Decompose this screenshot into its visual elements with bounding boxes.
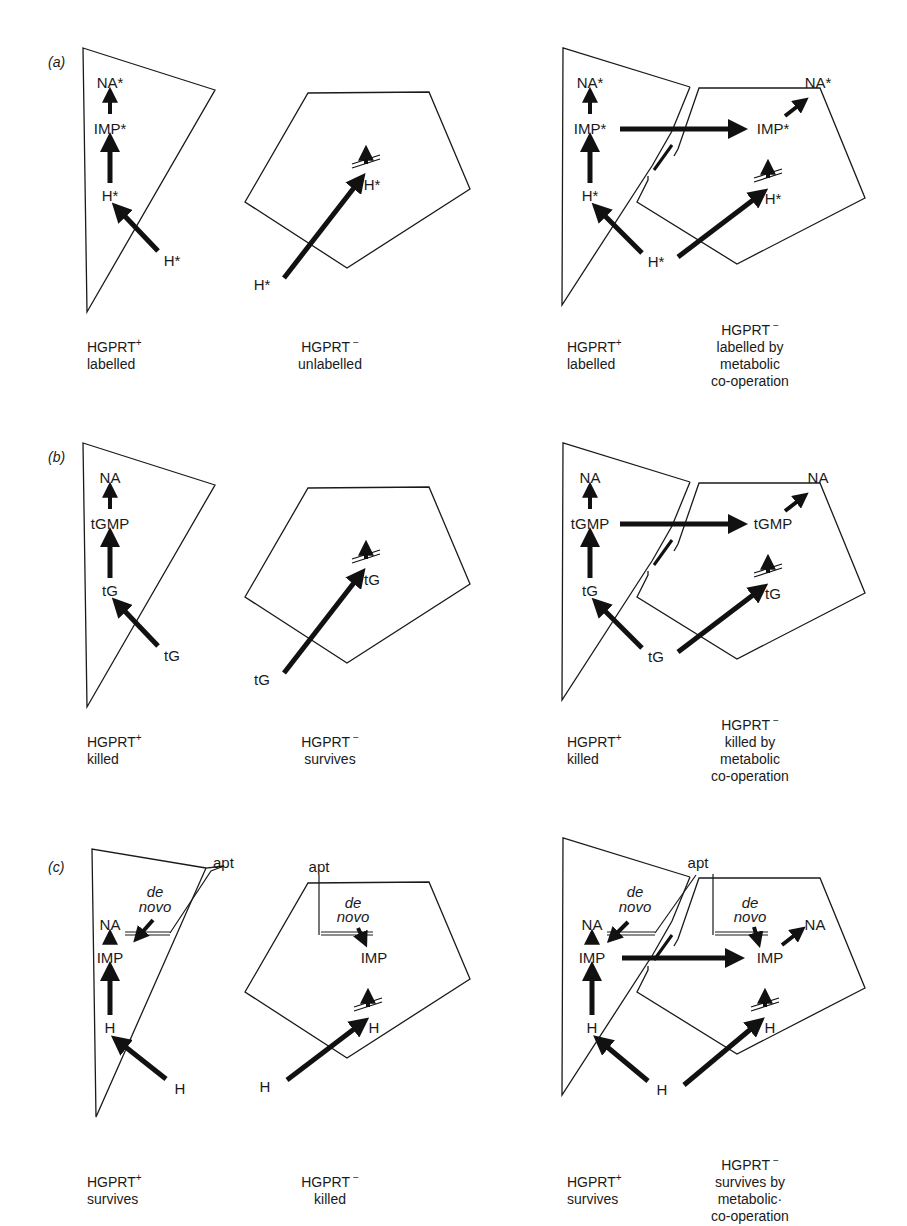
- panel-label: (c): [48, 859, 64, 875]
- caption-coop-positive: HGPRT+labelled: [567, 337, 622, 372]
- metabolite-base-inside: H*: [102, 187, 119, 204]
- cell-membrane-right: [637, 88, 865, 264]
- metabolite-nucleotide: IMP*: [574, 120, 607, 137]
- metabolite-nucleotide: IMP*: [757, 120, 790, 137]
- cooperating-cells: NA*IMP*H*IMP*NA*H*H*: [562, 48, 865, 305]
- caption-coop-negative: HGPRT−labelled bymetabolicco-operation: [711, 320, 789, 389]
- outcome-label: co-operation: [711, 373, 789, 389]
- metabolite-base-inside: H: [105, 1019, 116, 1036]
- cell-hgprt-positive: NAtGMPtGtG: [83, 443, 215, 707]
- genotype-label: HGPRT+: [567, 1172, 622, 1190]
- outcome-label: killed by: [725, 734, 776, 750]
- outcome-label: survives: [304, 751, 355, 767]
- outcome-label: metabolic: [720, 751, 780, 767]
- panel-c: (c)aptdenovoNAIMPHHaptdenovoIMPHHaptdeno…: [48, 838, 865, 1224]
- metabolite-na: NA*: [805, 74, 832, 91]
- genotype-label: HGPRT+: [87, 732, 142, 750]
- caption-coop-positive: HGPRT+killed: [567, 732, 622, 767]
- uptake-arrow: [678, 589, 761, 652]
- genotype-label: HGPRT−: [721, 1155, 779, 1173]
- caption-hgprt-negative: HGPRT−killed: [301, 1172, 359, 1207]
- de-novo-label: novo: [619, 898, 652, 915]
- apt-label: apt: [688, 854, 710, 871]
- cell-hgprt-negative: H*H*: [245, 92, 470, 293]
- genotype-label: HGPRT+: [567, 337, 622, 355]
- outcome-label: survives: [567, 1191, 618, 1207]
- uptake-arrow: [684, 1023, 758, 1085]
- panel-a: (a)NA*IMP*H*H*H*H*NA*IMP*H*IMP*NA*H*H*HG…: [48, 48, 865, 389]
- metabolite-nucleotide: IMP: [579, 949, 606, 966]
- metabolite-nucleotide: IMP*: [94, 120, 127, 137]
- outcome-label: unlabelled: [298, 356, 362, 372]
- metabolite-na: NA: [100, 469, 121, 486]
- metabolite-base-inside: H*: [765, 190, 782, 207]
- cell-membrane-left: [562, 838, 690, 1095]
- de-novo-arrow: [358, 928, 364, 941]
- uptake-arrow: [284, 180, 360, 278]
- metabolite-nucleotide: IMP: [97, 949, 124, 966]
- caption-coop-negative: HGPRT−killed bymetabolicco-operation: [711, 715, 789, 784]
- metabolite-base-outside: tG: [254, 671, 270, 688]
- metabolite-nucleotide: tGMP: [571, 515, 609, 532]
- metabolite-base-inside: tG: [102, 582, 118, 599]
- metabolite-base-outside: H*: [254, 276, 271, 293]
- genotype-label: HGPRT−: [721, 320, 779, 338]
- caption-hgprt-positive: HGPRT+killed: [87, 732, 142, 767]
- conversion-arrow: [785, 102, 803, 116]
- cell-hgprt-positive: aptdenovoNAIMPHH: [92, 849, 235, 1117]
- metabolite-base-inside: H: [587, 1019, 598, 1036]
- outcome-label: killed: [87, 751, 119, 767]
- outcome-label: survives: [87, 1191, 138, 1207]
- cell-hgprt-negative: tGtG: [245, 487, 470, 688]
- outcome-label: metabolic: [720, 356, 780, 372]
- genotype-label: HGPRT−: [301, 337, 359, 355]
- metabolite-base-inside: H*: [582, 187, 599, 204]
- caption-coop-negative: HGPRT−survives bymetabolic·co-operation: [711, 1155, 789, 1224]
- metabolite-base-inside: tG: [582, 582, 598, 599]
- apt-label: apt: [309, 858, 331, 875]
- outcome-label: metabolic·: [718, 1191, 783, 1207]
- cell-hgprt-positive: NA*IMP*H*H*: [83, 48, 215, 312]
- metabolite-base-inside: tG: [765, 585, 781, 602]
- uptake-arrow: [118, 209, 158, 251]
- outcome-label: co-operation: [711, 1208, 789, 1224]
- outcome-label: survives by: [715, 1174, 785, 1190]
- de-novo-label: novo: [734, 908, 767, 925]
- metabolite-base-inside: tG: [364, 571, 380, 588]
- conversion-arrow: [782, 931, 800, 945]
- outcome-label: labelled by: [717, 339, 784, 355]
- metabolite-na: NA: [100, 916, 121, 933]
- uptake-arrow: [287, 1023, 362, 1080]
- metabolic-cooperation-diagram: (a)NA*IMP*H*H*H*H*NA*IMP*H*IMP*NA*H*H*HG…: [0, 0, 907, 1226]
- genotype-label: HGPRT−: [301, 732, 359, 750]
- caption-hgprt-positive: HGPRT+survives: [87, 1172, 142, 1207]
- de-novo-label: novo: [139, 898, 172, 915]
- cooperating-cells: NAtGMPtGtGMPNAtGtG: [562, 443, 865, 700]
- metabolite-na: NA*: [577, 74, 604, 91]
- outcome-label: labelled: [87, 356, 135, 372]
- metabolite-base-outside: tG: [648, 648, 664, 665]
- metabolite-na: NA: [580, 469, 601, 486]
- genotype-label: HGPRT−: [721, 715, 779, 733]
- panel-label: (b): [48, 449, 65, 465]
- cooperating-cells: aptdenovodenovoNAIMPHIMPNAHH: [562, 838, 865, 1098]
- metabolite-base-outside: H: [260, 1078, 271, 1095]
- metabolite-base-outside: H*: [648, 253, 665, 270]
- panel-label: (a): [48, 54, 65, 70]
- caption-hgprt-positive: HGPRT+labelled: [87, 337, 142, 372]
- metabolite-na: NA: [808, 469, 829, 486]
- outcome-label: co-operation: [711, 768, 789, 784]
- metabolite-nucleotide: IMP: [361, 949, 388, 966]
- metabolite-nucleotide: tGMP: [754, 515, 792, 532]
- metabolite-na: NA: [805, 916, 826, 933]
- genotype-label: HGPRT+: [87, 1172, 142, 1190]
- uptake-arrow: [118, 604, 158, 646]
- metabolite-base-outside: H*: [164, 252, 181, 269]
- metabolite-base-inside: H: [369, 1019, 380, 1036]
- cell-hgprt-negative: aptdenovoIMPHH: [245, 858, 470, 1095]
- apt-label: apt: [213, 854, 235, 871]
- outcome-label: killed: [567, 751, 599, 767]
- outcome-label: killed: [314, 1191, 346, 1207]
- conversion-arrow: [785, 497, 803, 511]
- metabolite-base-outside: H: [657, 1081, 668, 1098]
